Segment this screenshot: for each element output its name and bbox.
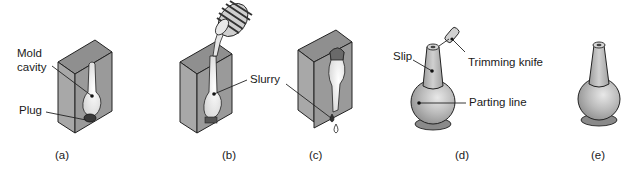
plug-shape (84, 114, 96, 122)
panel-d-product (411, 26, 466, 130)
label-slip: Slip (393, 51, 412, 63)
caption-e: (e) (591, 150, 605, 162)
label-plug: Plug (19, 105, 42, 117)
trimming-knife-icon (439, 26, 460, 46)
caption-b: (b) (222, 150, 236, 162)
panel-c-mold (286, 30, 352, 133)
panel-a-mold (46, 40, 112, 133)
caption-d: (d) (455, 150, 469, 162)
slip-casting-figure: Mold cavity Plug Slurry Slip Trimming kn… (0, 0, 624, 181)
label-mold: Mold (17, 48, 42, 60)
panel-b-mold (180, 0, 254, 133)
caption-c: (c) (309, 150, 322, 162)
panel-e-product (578, 42, 620, 126)
label-trimming-knife: Trimming knife (468, 57, 543, 69)
label-slurry: Slurry (250, 74, 280, 86)
caption-a: (a) (55, 150, 69, 162)
label-parting-line: Parting line (469, 97, 527, 109)
label-cavity: cavity (17, 62, 46, 74)
